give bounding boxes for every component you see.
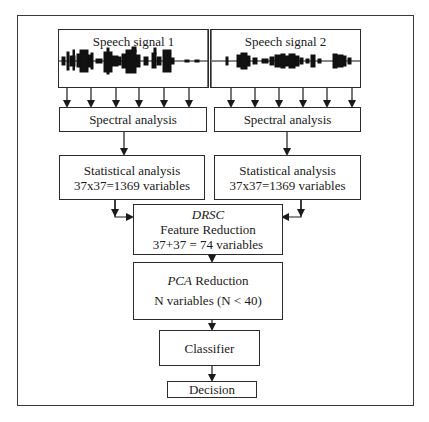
arrows-spectral-to-statistical xyxy=(124,131,287,152)
drsc-feature-reduction-label: Feature Reduction xyxy=(160,222,256,237)
decision-box: Decision xyxy=(167,381,257,398)
statistical-analysis-2-title: Statistical analysis xyxy=(239,163,335,178)
pca-reduction-box: PCA Reduction N variables (N < 40) xyxy=(133,262,283,320)
arrows-signal-1 xyxy=(67,88,189,104)
waveform-1 xyxy=(59,47,208,74)
drsc-title: DRSC xyxy=(192,207,225,222)
arrows-signal-2 xyxy=(231,88,352,104)
spectral-analysis-1-label: Spectral analysis xyxy=(89,112,177,127)
pca-abbrev: PCA xyxy=(167,273,192,288)
statistical-analysis-1-vars: 37x37=1369 variables xyxy=(74,178,190,193)
statistical-analysis-2-box: Statistical analysis 37x37=1369 variable… xyxy=(214,155,361,200)
pca-variables-label: N variables (N < 40) xyxy=(154,291,262,311)
drsc-variables-label: 37+37 = 74 variables xyxy=(153,237,263,252)
classifier-box: Classifier xyxy=(159,330,260,366)
pca-reduction-word: Reduction xyxy=(192,273,249,288)
pca-title: PCA Reduction xyxy=(167,271,248,291)
spectral-analysis-1-box: Spectral analysis xyxy=(59,107,207,132)
spectral-analysis-2-box: Spectral analysis xyxy=(214,107,361,132)
waveform-2 xyxy=(212,53,360,69)
spectral-analysis-2-label: Spectral analysis xyxy=(244,112,332,127)
statistical-analysis-2-vars: 37x37=1369 variables xyxy=(229,178,345,193)
statistical-analysis-1-title: Statistical analysis xyxy=(84,163,180,178)
statistical-analysis-1-box: Statistical analysis 37x37=1369 variable… xyxy=(59,155,205,200)
decision-label: Decision xyxy=(189,382,235,397)
drsc-feature-reduction-box: DRSC Feature Reduction 37+37 = 74 variab… xyxy=(133,204,283,255)
classifier-label: Classifier xyxy=(185,341,235,356)
